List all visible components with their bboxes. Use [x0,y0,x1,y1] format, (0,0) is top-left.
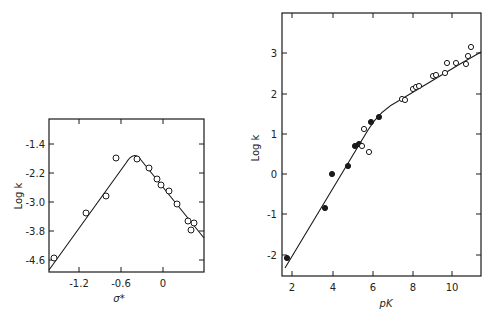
data-point-filled [329,171,334,176]
left-x-tick-label: 0 [160,278,166,289]
data-point-open [361,126,366,131]
left-y-tick-label: -1.4 [25,139,45,150]
left-plot-frame [49,119,204,272]
left-y-tick-label: -3.0 [25,197,45,208]
data-point-open [444,60,449,65]
data-point [146,165,152,171]
right-y-tick-label: -2 [267,250,277,261]
left-y-axis-label: Log k [13,182,24,209]
right-y-tick-label: -1 [267,209,277,220]
right-x-tick-label: 2 [289,282,295,293]
right-open-points [359,44,473,154]
left-y-tick-label: -3.8 [25,226,45,237]
data-point-open [442,70,447,75]
left-x-axis-label: σ* [113,293,124,304]
left-data-points [51,155,197,261]
right-chart: 2 4 6 8 10 3 2 1 0 -1 -2 pK Log k [250,13,481,309]
right-x-tick-label: 10 [446,282,459,293]
data-point [158,182,164,188]
right-y-axis-label: Log k [250,134,261,161]
right-x-axis-label: pK [379,298,394,309]
right-y-tick-label: 0 [271,169,277,180]
data-point [83,210,89,216]
data-point [174,201,180,207]
left-x-tick-label: -1.2 [69,278,89,289]
data-point [103,193,109,199]
left-y-tick-label: -2.2 [25,168,45,179]
data-point-open [453,60,458,65]
data-point-filled [368,119,373,124]
data-point-open [402,97,407,102]
data-point-filled [376,114,381,119]
right-x-tick-label: 6 [370,282,376,293]
data-point-open [465,53,470,58]
right-y-tick-label: 2 [271,89,277,100]
left-fit-curve [49,156,204,270]
right-fit-curve [285,52,481,268]
data-point-open [433,72,438,77]
data-point [188,227,194,233]
data-point-open [468,44,473,49]
left-x-tick-label: -0.6 [111,278,131,289]
data-point-filled [345,163,350,168]
data-point [191,220,197,226]
data-point-open [416,83,421,88]
figure-canvas: -1.2 -0.6 0 -1.4 -2.2 -3.0 -3.8 -4.6 σ* … [0,0,494,318]
data-point-open [359,143,364,148]
left-y-tick-label: -4.6 [25,255,45,266]
right-x-tick-label: 4 [330,282,336,293]
data-point [166,188,172,194]
right-x-tick-label: 8 [410,282,416,293]
data-point-open [463,61,468,66]
data-point-filled [284,255,289,260]
data-point [154,176,160,182]
right-y-tick-label: 3 [271,48,277,59]
data-point-open [366,149,371,154]
data-point [51,255,57,261]
right-y-tick-label: 1 [271,129,277,140]
data-point [134,156,140,162]
right-plot-frame [282,13,481,276]
data-point-filled [322,205,327,210]
data-point [113,155,119,161]
left-chart: -1.2 -0.6 0 -1.4 -2.2 -3.0 -3.8 -4.6 σ* … [13,119,204,304]
data-point [185,218,191,224]
